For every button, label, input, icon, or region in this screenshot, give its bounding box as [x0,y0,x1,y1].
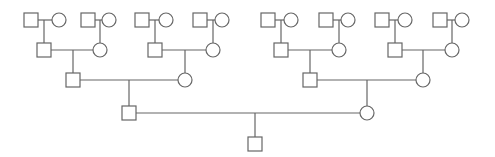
individuals [24,13,469,151]
female-circle-icon [102,13,116,27]
female-circle-icon [416,73,430,87]
male-square-icon [66,73,80,87]
male-square-icon [388,43,402,57]
female-circle-icon [178,73,192,87]
male-square-icon [24,13,38,27]
male-square-icon [81,13,95,27]
female-circle-icon [284,13,298,27]
pedigree-diagram [0,0,495,157]
female-circle-icon [159,13,173,27]
male-square-icon [135,13,149,27]
female-circle-icon [398,13,412,27]
female-circle-icon [52,13,66,27]
female-circle-icon [215,13,229,27]
female-circle-icon [341,13,355,27]
male-square-icon [274,43,288,57]
male-square-icon [319,13,333,27]
pedigree-chart [0,0,495,157]
male-square-icon [261,13,275,27]
female-circle-icon [93,43,107,57]
male-square-icon [375,13,389,27]
female-circle-icon [445,43,459,57]
male-square-icon [303,73,317,87]
male-square-icon [148,43,162,57]
male-square-icon [122,106,136,120]
female-circle-icon [332,43,346,57]
male-square-icon [433,13,447,27]
female-circle-icon [455,13,469,27]
relationship-lines [38,20,455,137]
male-square-icon [248,137,262,151]
male-square-icon [37,43,51,57]
female-circle-icon [206,43,220,57]
male-square-icon [193,13,207,27]
female-circle-icon [360,106,374,120]
